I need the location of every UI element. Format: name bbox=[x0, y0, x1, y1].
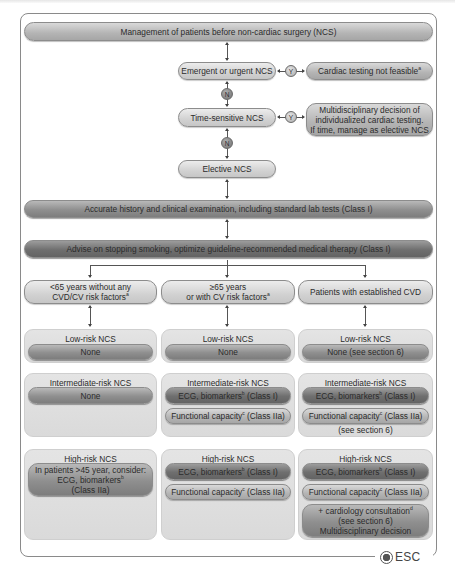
high-risk-panel-col1: High-risk NCS In patients >45 year, cons… bbox=[24, 449, 157, 540]
high-risk-panel-col3: High-risk NCS ECG, biomarkersb (Class I)… bbox=[298, 449, 433, 540]
cardiac-testing-node: Cardiac testing not feasiblea bbox=[306, 62, 433, 80]
top-rule bbox=[0, 0, 455, 3]
no-label: N bbox=[225, 140, 230, 147]
recommendation-text: None bbox=[81, 391, 101, 401]
no-circle-icon: N bbox=[221, 88, 233, 100]
arrow-left-icon bbox=[277, 115, 280, 119]
panel-title: Low-risk NCS bbox=[299, 334, 432, 344]
arrow-down-icon bbox=[363, 275, 367, 278]
title-text: Management of patients before non-cardia… bbox=[121, 27, 337, 37]
time-sensitive-node: Time-sensitive NCS bbox=[178, 108, 276, 127]
elective-label: Elective NCS bbox=[203, 164, 252, 174]
ecg-biomarkers-rec: ECG, biomarkersb (Class I) bbox=[302, 463, 429, 480]
recommendation-text: None bbox=[218, 347, 238, 357]
recommendation: None bbox=[28, 344, 153, 360]
multidisciplinary-line3: If time, manage as elective NCS bbox=[310, 125, 429, 135]
recommendation: None (see section 6) bbox=[302, 344, 429, 360]
ecg-biomarkers-rec: ECG, biomarkersb (Class I) bbox=[302, 387, 429, 404]
ecg-biomarkers-rec: ECG, biomarkersb (Class I) bbox=[165, 387, 291, 404]
connector bbox=[227, 306, 228, 326]
arrow-up-icon bbox=[225, 305, 229, 308]
arrow-right-icon bbox=[302, 69, 305, 73]
arrow-up-icon bbox=[363, 305, 367, 308]
high-risk-panel-col2: High-risk NCS ECG, biomarkersb (Class I)… bbox=[161, 449, 295, 540]
multidisciplinary-node: Multidisciplinary decision of individual… bbox=[306, 103, 433, 136]
arrow-up-icon bbox=[225, 81, 229, 84]
recommendation-line1: In patients >45 year, consider: bbox=[35, 465, 146, 475]
arrow-down-icon bbox=[225, 275, 229, 278]
recommendation-text: ECG, biomarkersb (Class I) bbox=[316, 467, 416, 477]
arrow-up-icon bbox=[225, 179, 229, 182]
emergent-node: Emergent or urgent NCS bbox=[178, 62, 276, 80]
arrow-up-icon bbox=[225, 219, 229, 222]
elective-node: Elective NCS bbox=[178, 160, 276, 178]
arrow-up-icon bbox=[225, 42, 229, 45]
see-section-note: (see section 6) bbox=[299, 425, 432, 435]
low-risk-panel-col1: Low-risk NCS None bbox=[24, 329, 157, 363]
low-risk-panel-col2: Low-risk NCS None bbox=[161, 329, 295, 363]
recommendation-text: ECG, biomarkersb (Class I) bbox=[316, 391, 416, 401]
yes-circle-icon: Y bbox=[285, 65, 297, 77]
yes-label: Y bbox=[289, 68, 293, 75]
functional-capacity-rec: Functional capacityc (Class IIa) bbox=[302, 484, 429, 500]
multidisciplinary-line2: individualized cardiac testing. bbox=[316, 115, 424, 125]
arrow-down-icon bbox=[225, 156, 229, 159]
history-label: Accurate history and clinical examinatio… bbox=[84, 204, 372, 214]
consult-line2: (see section 6) bbox=[338, 516, 392, 526]
arrow-down-icon bbox=[225, 236, 229, 239]
panel-title: Low-risk NCS bbox=[25, 334, 156, 344]
column-header-established-cvd: Patients with established CVD bbox=[298, 280, 433, 304]
history-step: Accurate history and clinical examinatio… bbox=[24, 200, 433, 218]
consult-line3: Multidisciplinary decision bbox=[320, 526, 411, 536]
recommendation-line3: (Class IIa) bbox=[72, 485, 110, 495]
recommendation-text: ECG, biomarkersb (Class I) bbox=[178, 467, 278, 477]
arrow-down-icon bbox=[225, 58, 229, 61]
ecg-biomarkers-rec: ECG, biomarkersb (Class I) bbox=[165, 463, 291, 480]
recommendation: None bbox=[28, 387, 153, 404]
branch-line bbox=[90, 265, 365, 266]
intermediate-risk-panel-col2: Intermediate-risk NCS ECG, biomarkersb (… bbox=[161, 373, 295, 437]
no-label: N bbox=[225, 91, 230, 98]
arrow-down-icon bbox=[363, 324, 367, 327]
title-bar: Management of patients before non-cardia… bbox=[24, 22, 433, 41]
header-line1: <65 years without any bbox=[50, 282, 131, 292]
arrow-up-icon bbox=[88, 305, 92, 308]
yes-circle-icon: Y bbox=[285, 111, 297, 123]
arrow-up-icon bbox=[225, 128, 229, 131]
no-circle-icon: N bbox=[221, 137, 233, 149]
arrow-down-icon bbox=[88, 275, 92, 278]
recommendation: In patients >45 year, consider: ECG, bio… bbox=[28, 463, 153, 496]
recommendation-text: ECG, biomarkersb (Class I) bbox=[178, 391, 278, 401]
functional-capacity-rec: Functional capacityc (Class IIa) bbox=[165, 408, 291, 424]
recommendation-line2: ECG, biomarkersb bbox=[57, 475, 123, 485]
esc-logo: ESC bbox=[380, 549, 421, 565]
emergent-label: Emergent or urgent NCS bbox=[181, 66, 272, 76]
column-header-65-plus: ≥65 years or with CV risk factorsa bbox=[161, 280, 295, 304]
yes-label: Y bbox=[289, 114, 293, 121]
functional-capacity-rec: Functional capacityc (Class IIa) bbox=[302, 408, 429, 424]
panel-title: Low-risk NCS bbox=[162, 334, 294, 344]
time-sensitive-label: Time-sensitive NCS bbox=[191, 113, 264, 123]
header-line1: ≥65 years bbox=[210, 282, 246, 292]
esc-logo-text: ESC bbox=[395, 550, 421, 564]
advise-label: Advise on stopping smoking, optimize gui… bbox=[66, 244, 390, 254]
connector bbox=[90, 306, 91, 326]
arrow-right-icon bbox=[302, 115, 305, 119]
arrow-down-icon bbox=[225, 104, 229, 107]
column-header-under-65: <65 years without any CVD/CV risk factor… bbox=[24, 280, 157, 304]
arrow-left-icon bbox=[277, 69, 280, 73]
advise-step: Advise on stopping smoking, optimize gui… bbox=[24, 240, 433, 258]
arrow-down-icon bbox=[225, 196, 229, 199]
recommendation-text: Functional capacityc (Class IIa) bbox=[309, 411, 423, 421]
header-line1: Patients with established CVD bbox=[310, 287, 421, 297]
header-line2: CVD/CV risk factorsa bbox=[52, 292, 129, 302]
low-risk-panel-col3: Low-risk NCS None (see section 6) bbox=[298, 329, 433, 363]
functional-capacity-rec: Functional capacityc (Class IIa) bbox=[165, 484, 291, 500]
intermediate-risk-panel-col3: Intermediate-risk NCS ECG, biomarkersb (… bbox=[298, 373, 433, 437]
arrow-down-icon bbox=[88, 324, 92, 327]
cardiology-consultation-rec: + cardiology consultationd (see section … bbox=[302, 504, 429, 537]
connector bbox=[365, 306, 366, 326]
cardiac-testing-label: Cardiac testing not feasiblea bbox=[318, 66, 421, 76]
esc-heart-icon bbox=[380, 551, 393, 564]
consult-line1: + cardiology consultationd bbox=[318, 506, 412, 516]
